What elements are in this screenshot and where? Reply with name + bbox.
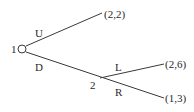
- action-label-l: L: [115, 61, 122, 73]
- payoff-l: (2,6): [165, 58, 186, 71]
- payoff-u: (2,2): [104, 8, 125, 21]
- payoff-r: (1,3): [165, 92, 186, 105]
- player-label-1: 1: [11, 43, 17, 55]
- edge-d-r: [26, 52, 164, 98]
- edge-l: [100, 64, 164, 78]
- action-label-d: D: [35, 61, 43, 73]
- action-label-r: R: [115, 86, 123, 98]
- decision-node-1: [18, 45, 26, 53]
- game-tree-diagram: 1 2 U D L R (2,2) (2,6) (1,3): [0, 0, 194, 112]
- player-label-2: 2: [90, 79, 96, 91]
- action-label-u: U: [35, 27, 43, 39]
